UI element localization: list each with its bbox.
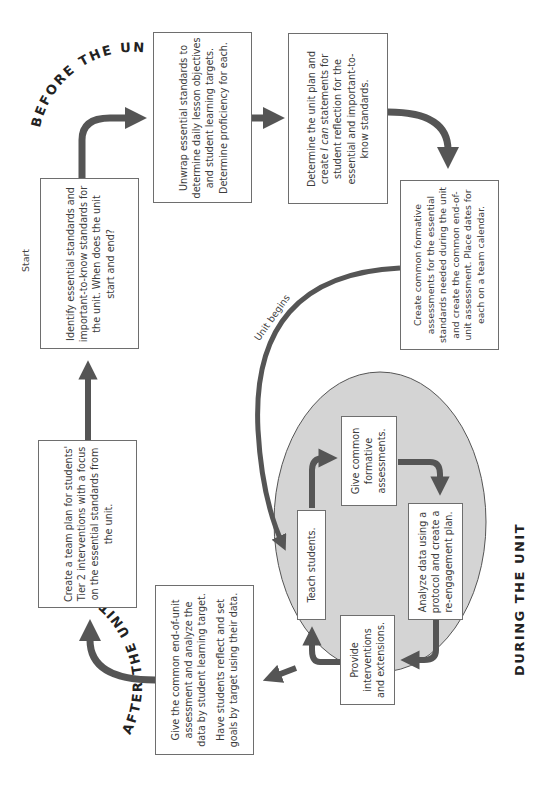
cycle-teach-students: Teach students. bbox=[297, 510, 326, 620]
cycle-give-formative: Give common formative assessments. bbox=[341, 416, 397, 506]
step-determine-unit-plan: Determine the unit plan and create I can… bbox=[288, 33, 388, 204]
step-text: Determine the unit plan and create I can… bbox=[305, 44, 371, 194]
before-unit-label: BEFORE THE UNIT bbox=[0, 0, 147, 129]
step-unwrap-standards: Unwrap essential standards to determine … bbox=[153, 32, 252, 203]
start-label: Start bbox=[20, 249, 31, 272]
cycle-analyze-data: Analyze data using a protocol and create… bbox=[408, 503, 463, 620]
step-give-end-of-unit: Give the common end-of-unit assessment a… bbox=[155, 585, 254, 755]
step-team-plan: Create a team plan for students' Tier 2 … bbox=[38, 440, 137, 608]
cycle-provide-interventions: Provide interventions and extensions. bbox=[340, 615, 395, 705]
step-text: Create common formative assessments for … bbox=[412, 186, 488, 344]
step-text: Unwrap essential standards to determine … bbox=[176, 37, 229, 199]
during-unit-label: DURING THE UNIT bbox=[512, 523, 527, 676]
cycle-text: Analyze data using a protocol and create… bbox=[416, 507, 456, 617]
step-text-reflect: Have students reflect and set goals by t… bbox=[214, 590, 240, 750]
cycle-text: Provide interventions and extensions. bbox=[348, 620, 388, 700]
diagram-graphics: BEFORE THE UNIT AFTER THE UNIT bbox=[0, 0, 534, 787]
arrow-cycle-to-end bbox=[270, 668, 296, 678]
cycle-text: Teach students. bbox=[305, 515, 318, 615]
step-identify-standards: Identify essential standards and importa… bbox=[40, 178, 139, 349]
arrow-identify-to-unwrap bbox=[82, 118, 138, 178]
cycle-text: Give common formative assessments. bbox=[349, 421, 389, 501]
step-create-common-assessments: Create common formative assessments for … bbox=[400, 180, 499, 350]
arrow-determine-to-create bbox=[388, 112, 448, 160]
step-text: Give the common end-of-unit assessment a… bbox=[169, 590, 209, 750]
unit-cycle-diagram: BEFORE THE UNIT AFTER THE UNIT Start Uni… bbox=[0, 0, 534, 787]
step-text: Create a team plan for students' Tier 2 … bbox=[61, 444, 114, 604]
step-text: Identify essential standards and importa… bbox=[63, 184, 116, 344]
